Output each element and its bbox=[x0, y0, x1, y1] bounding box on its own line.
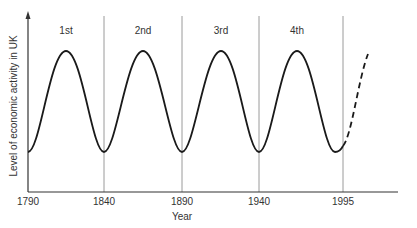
x-tick-1840: 1840 bbox=[93, 196, 116, 207]
cycle-label-4: 4th bbox=[290, 25, 304, 36]
long-wave-chart: 1st 2nd 3rd 4th 1790 1840 1890 1940 1995… bbox=[0, 0, 417, 228]
projected-curve bbox=[343, 54, 368, 146]
x-tick-1940: 1940 bbox=[248, 196, 271, 207]
x-tick-1790: 1790 bbox=[17, 196, 40, 207]
cycle-label-3: 3rd bbox=[214, 25, 228, 36]
x-tick-1995: 1995 bbox=[332, 196, 355, 207]
y-axis-title: Level of economic activity in UK bbox=[8, 35, 19, 177]
x-axis-title: Year bbox=[172, 211, 193, 222]
x-tick-1890: 1890 bbox=[171, 196, 194, 207]
cycle-label-1: 1st bbox=[59, 25, 73, 36]
cycle-label-2: 2nd bbox=[135, 25, 152, 36]
y-axis-arrow-icon bbox=[26, 11, 31, 19]
cycle-curve bbox=[28, 51, 343, 152]
